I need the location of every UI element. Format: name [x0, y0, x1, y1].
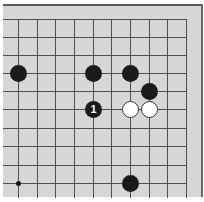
- grid-line-horizontal: [3, 37, 187, 38]
- grid-line-vertical: [37, 19, 38, 198]
- grid-line-vertical: [111, 19, 112, 198]
- grid-line-horizontal: [3, 91, 187, 92]
- grid-line-vertical: [74, 19, 75, 198]
- black-stone: [85, 65, 102, 82]
- star-point: [16, 181, 21, 186]
- black-stone: [141, 83, 158, 100]
- black-stone-move-1: 1: [85, 101, 102, 118]
- grid-line-horizontal: [3, 146, 187, 147]
- black-stone: [122, 65, 139, 82]
- move-number-label: 1: [90, 104, 96, 115]
- black-stone: [10, 65, 27, 82]
- go-board: 1: [0, 0, 204, 202]
- board-background: [3, 5, 202, 197]
- grid-line-horizontal: [3, 128, 187, 129]
- board-frame-right: [201, 4, 203, 197]
- grid-line-horizontal: [3, 19, 187, 20]
- grid-line-horizontal: [3, 165, 187, 166]
- grid-line-vertical: [55, 19, 56, 198]
- black-stone: [122, 175, 139, 192]
- grid-line-vertical: [18, 19, 19, 198]
- white-stone: [122, 101, 139, 118]
- grid-line-horizontal: [3, 55, 187, 56]
- grid-line-vertical: [186, 19, 187, 198]
- white-stone: [141, 101, 158, 118]
- grid-line-vertical: [167, 19, 168, 198]
- board-frame-top: [3, 4, 203, 6]
- grid-line-horizontal: [3, 183, 187, 184]
